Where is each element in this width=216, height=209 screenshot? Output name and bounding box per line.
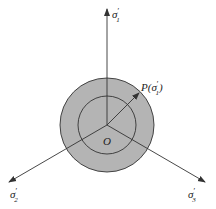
sigma2-label: σ′2 [10, 187, 18, 204]
sigma3-label: σ′3 [188, 187, 196, 204]
vector-p-label: P(σ′1) [140, 80, 163, 97]
sigma1-label: σ′1 [112, 7, 120, 24]
origin-label: O [103, 135, 111, 147]
deviatoric-plane-diagram: σ′1 σ′2 σ′3 P(σ′1) O [0, 0, 216, 209]
